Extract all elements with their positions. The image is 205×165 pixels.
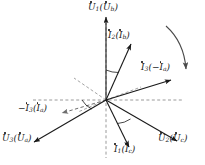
label-i3-main-symbol: I (141, 63, 145, 72)
label-u1-main-symbol: U (88, 3, 96, 12)
label-i3neg-main-sign: − (18, 103, 26, 113)
label-i3: I3(−Ia) (141, 63, 170, 72)
arc-u1-i2 (106, 70, 119, 73)
construction-ray-lower-left (78, 100, 106, 112)
vector-i3 (106, 80, 171, 100)
label-u3-main-symbol: U (2, 134, 10, 143)
label-i3neg-alt-symbol: I (36, 104, 40, 113)
label-u3-alt-symbol: U (17, 134, 25, 143)
label-u3: U3(Ua) (2, 134, 32, 143)
label-u2: U2(Uc) (158, 134, 187, 143)
label-u2-alt-symbol: U (173, 134, 181, 143)
vector-i3-negative (62, 100, 106, 113)
label-i1-alt-symbol: I (125, 145, 129, 154)
arc-horizontal-u3 (82, 100, 92, 109)
label-u1: U1(Ub) (88, 3, 118, 12)
label-i2: I2(Ib) (108, 31, 130, 40)
vector-i2 (106, 44, 131, 100)
phasor-diagram-canvas: U1(Ub) I2(Ib) I3(−Ia) −I3(Ia) U3(Ua) I1(… (0, 0, 205, 165)
label-u2-main-symbol: U (158, 134, 166, 143)
label-i2-main-symbol: I (108, 31, 112, 40)
label-i1: I1(Ic) (114, 145, 135, 154)
label-i3-alt-symbol: I (159, 63, 163, 72)
label-i3-negative: −I3(Ia) (18, 104, 47, 113)
label-i1-main-symbol: I (114, 145, 118, 154)
construction-ray-upper-left (74, 78, 106, 100)
label-i2-alt-symbol: I (119, 31, 123, 40)
arc-i1-u2 (118, 119, 131, 124)
construction-rays (74, 78, 141, 112)
label-u1-alt-symbol: U (103, 3, 111, 12)
label-i3neg-main-symbol: I (26, 104, 30, 113)
